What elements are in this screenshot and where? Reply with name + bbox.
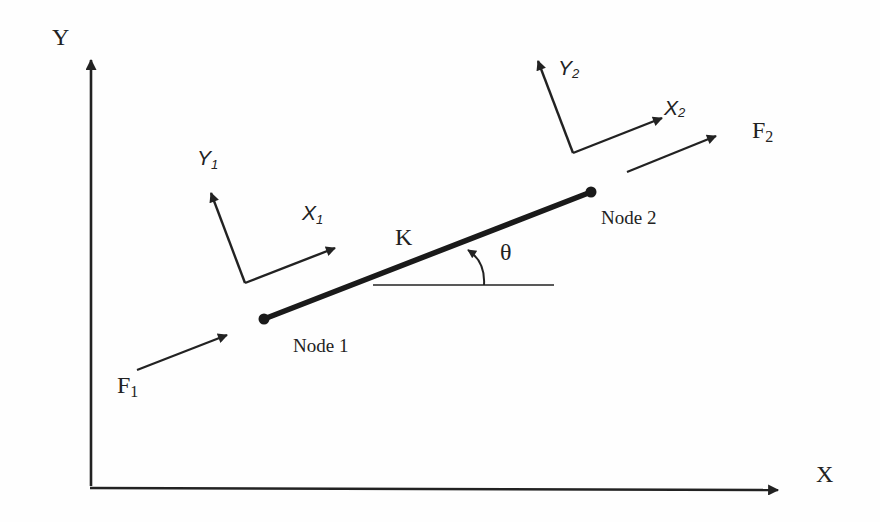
local-frame-1: Y1 X1 bbox=[197, 146, 335, 283]
global-y-label: Y bbox=[52, 24, 69, 50]
force-f2-arrow bbox=[627, 136, 716, 172]
node-1-dot bbox=[259, 314, 270, 325]
node-1-label: Node 1 bbox=[293, 335, 348, 356]
global-x-label: X bbox=[816, 461, 833, 487]
force-f2-label: F2 bbox=[752, 117, 773, 145]
node-2-dot bbox=[586, 187, 597, 198]
local-x1-arrow bbox=[245, 248, 335, 283]
spring-element-diagram: Y X Y1 X1 Y2 X2 K Node 1 Node 2 θ F1 F2 bbox=[0, 0, 880, 522]
force-f1-arrow bbox=[137, 335, 227, 370]
theta-label: θ bbox=[500, 239, 512, 265]
global-axes: Y X bbox=[52, 24, 833, 490]
local-x2-arrow bbox=[573, 118, 662, 153]
node-2-label: Node 2 bbox=[601, 207, 656, 228]
theta-arc-arrow bbox=[468, 250, 484, 285]
global-x-axis bbox=[90, 488, 778, 490]
local-y1-label: Y1 bbox=[197, 146, 218, 172]
stiffness-label: K bbox=[395, 224, 413, 250]
local-x2-label: X2 bbox=[663, 96, 686, 120]
local-y2-label: Y2 bbox=[558, 56, 580, 81]
force-f1-label: F1 bbox=[117, 372, 138, 400]
local-frame-2: Y2 X2 bbox=[538, 56, 686, 153]
diagram-canvas: Y X Y1 X1 Y2 X2 K Node 1 Node 2 θ F1 F2 bbox=[0, 0, 880, 522]
local-x1-label: X1 bbox=[301, 201, 323, 227]
local-y1-arrow bbox=[211, 193, 245, 283]
